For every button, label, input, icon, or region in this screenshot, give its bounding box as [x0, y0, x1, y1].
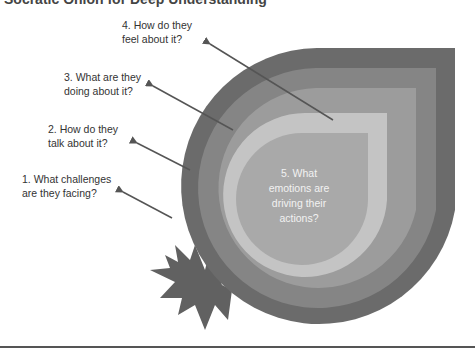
label-layer-5: 5. What emotions are driving their actio…: [254, 166, 344, 226]
label-layer-2: 2. How do they talk about it?: [48, 122, 118, 150]
arrow-1: [123, 192, 172, 218]
label-layer-4-line-2: feel about it?: [122, 32, 192, 46]
label-layer-4: 4. How do they feel about it?: [122, 18, 192, 46]
arrow-2: [137, 143, 190, 170]
label-layer-3-line-2: doing about it?: [64, 84, 141, 98]
label-layer-3: 3. What are they doing about it?: [64, 70, 141, 98]
label-layer-3-line-1: 3. What are they: [64, 70, 141, 84]
label-layer-2-line-2: talk about it?: [48, 136, 118, 150]
label-layer-2-line-1: 2. How do they: [48, 122, 118, 136]
label-layer-5-line-1: 5. What: [254, 166, 344, 181]
bottom-divider: [0, 346, 475, 348]
label-layer-5-line-3: driving their: [254, 196, 344, 211]
label-layer-1: 1. What challenges are they facing?: [22, 172, 111, 200]
label-layer-5-line-2: emotions are: [254, 181, 344, 196]
label-layer-5-line-4: actions?: [254, 211, 344, 226]
label-layer-1-line-1: 1. What challenges: [22, 172, 111, 186]
label-layer-1-line-2: are they facing?: [22, 186, 111, 200]
label-layer-4-line-1: 4. How do they: [122, 18, 192, 32]
